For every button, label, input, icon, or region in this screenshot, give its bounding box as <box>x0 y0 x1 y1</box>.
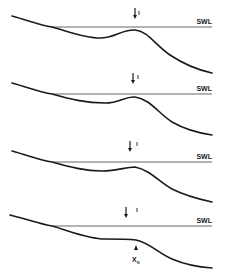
swl-label: SWL <box>196 18 212 25</box>
profile-panel-1: SWL <box>12 8 213 73</box>
profile-panel-2: SWL <box>12 73 213 135</box>
swl-label: SWL <box>196 217 212 224</box>
profile-panel-4: SWLXo <box>10 207 213 268</box>
profile-panel-3: SWL <box>12 141 213 202</box>
swl-label: SWL <box>196 153 212 160</box>
beach-profile-line <box>10 215 212 268</box>
beach-profile-line <box>12 16 212 73</box>
up-arrow-icon <box>134 245 138 250</box>
down-arrow-icon <box>128 148 132 152</box>
beach-profile-line <box>12 151 212 202</box>
down-arrow-icon <box>124 214 128 218</box>
down-arrow-icon <box>133 15 137 19</box>
swl-label: SWL <box>196 85 212 92</box>
xo-label-subscript: o <box>137 259 140 265</box>
beach-profile-line <box>12 83 212 135</box>
beach-profile-diagram: SWLSWLSWLSWLXo <box>0 0 226 278</box>
xo-label: Xo <box>132 256 140 265</box>
down-arrow-icon <box>131 80 135 84</box>
